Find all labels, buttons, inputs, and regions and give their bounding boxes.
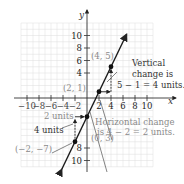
x-tick-label: 4: [108, 101, 113, 111]
annotations: Verticalchange is5 − 1 = 4 units.Horizon…: [34, 58, 184, 172]
x-axis-label: x: [168, 96, 173, 106]
annotation-vertical-line: 5 − 1 = 4 units.: [117, 80, 184, 90]
annotation-horizontal-line: Horizontal change: [95, 117, 175, 127]
point-label: (0, 3): [91, 133, 114, 143]
y-tick-label: 8: [77, 43, 82, 53]
annotation-vertical-line: change is: [132, 69, 173, 79]
annotation-vertical-line: Vertical: [131, 58, 165, 68]
y-tick-label: 6: [77, 56, 82, 66]
x-tick-label: 6: [120, 101, 125, 111]
y-axis-label: y: [78, 10, 85, 20]
x-tick-label: 8: [132, 101, 137, 111]
x-tick-label: −4: [57, 101, 70, 111]
data-point: [109, 64, 114, 69]
point-label: (2, 1): [63, 83, 86, 93]
y-tick-label: 8: [77, 143, 82, 153]
data-point: [73, 139, 78, 144]
four-units-leader: [62, 124, 73, 128]
data-point: [97, 89, 102, 94]
slope-graph: −10−8−6−4−224681010864810 Verticalchange…: [0, 0, 184, 184]
y-tick-label: 4: [77, 68, 82, 78]
annotation-four-units-line: 4 units: [34, 125, 64, 135]
data-point: [85, 114, 90, 119]
y-tick-label: 10: [71, 31, 82, 41]
y-tick-label: 10: [71, 156, 82, 166]
point-label: (4, 5): [91, 51, 114, 61]
annotation-two-units-line: 2 units: [44, 111, 74, 121]
x-tick-label: −8: [33, 101, 46, 111]
point-label: (−2, −7): [15, 144, 52, 154]
x-tick-label: 10: [142, 101, 153, 111]
x-tick-label: −6: [45, 101, 58, 111]
x-tick-label: −2: [69, 101, 82, 111]
